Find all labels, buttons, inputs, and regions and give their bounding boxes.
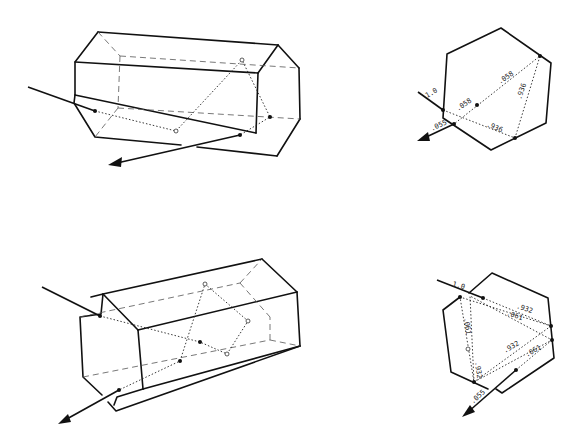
- bottom-right-hexagon: 1.0 .932 .061 .061 .932 .932 .061 .055: [437, 273, 554, 417]
- top-right-hexagon: 1.0 .058 .058 .936 .936 .055: [417, 28, 551, 150]
- arrowhead-icon: [58, 414, 71, 424]
- label-left-b: .932: [473, 361, 483, 379]
- label-seg-b: .936: [515, 82, 528, 101]
- top-left-prism: [28, 32, 300, 167]
- label-bottom-a: .932: [502, 339, 521, 354]
- arrowhead-icon: [417, 132, 430, 141]
- label-incident: 1.0: [424, 86, 439, 99]
- label-incident: 1.0: [451, 280, 465, 291]
- label-left-a: .061: [462, 317, 472, 335]
- label-bottom-b: .061: [524, 343, 543, 358]
- figure-canvas: 1.0 .058 .058 .936 .936 .055: [0, 0, 586, 447]
- label-seg-c: .936: [485, 120, 504, 134]
- arrowhead-icon: [108, 157, 122, 167]
- bottom-left-prism: [42, 259, 300, 424]
- label-seg-a1: .058: [455, 97, 473, 113]
